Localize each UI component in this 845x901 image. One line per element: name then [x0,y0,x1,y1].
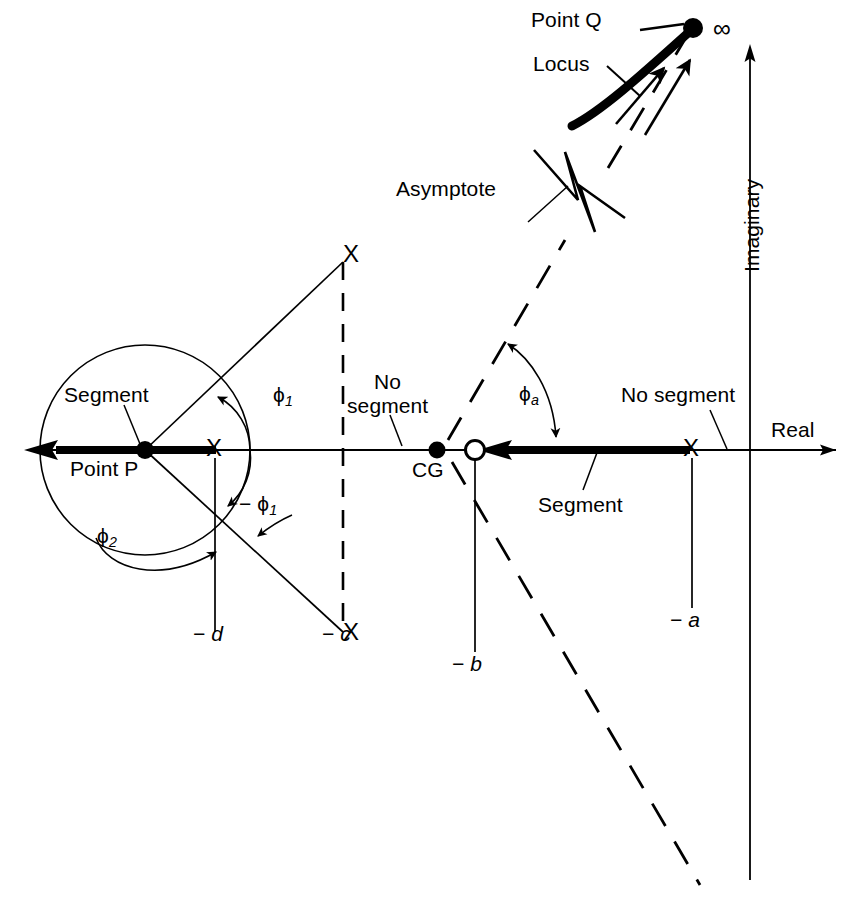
no-segment-right-label: No segment [621,383,735,407]
asymptote-line [448,34,700,885]
vector-p-to-upper-pole [145,262,343,450]
pole-marker-a: X [683,434,699,462]
axis-label-minus-b: − b [452,652,482,676]
asymptote-label: Asymptote [396,177,496,201]
locus-curve [572,33,688,126]
phi2-glyph: ϕ [97,524,109,547]
point-p-label: Point P [70,457,138,481]
neg-phi1-prefix: − [239,492,257,515]
axis-label-minus-c: − c [322,622,351,646]
phi1-upper-subscript: 1 [285,393,293,409]
no-segment-center-line1: No [374,370,401,393]
cg-dot [429,442,446,459]
phi2-label: ϕ2 [97,524,117,550]
vector-p-to-lower-pole [145,450,343,632]
leader-segment-right [583,450,598,490]
real-axis-label: Real [771,418,815,442]
neg-phi1-glyph: ϕ [257,492,269,515]
point-p-text: Point P [70,457,138,480]
pole-marker-d: X [206,434,222,462]
phi-a-glyph: ϕ [519,382,531,405]
no-segment-center-line2: segment [347,394,428,417]
zero-marker-b [466,441,485,460]
no-segment-center-label: No segment [347,370,428,417]
point-q-text: Point Q [531,8,602,31]
neg-phi1-label: − ϕ1 [239,492,277,518]
pole-marker-c-upper: X [343,240,359,268]
segment-right-label: Segment [538,493,623,517]
leader-point-q [640,24,684,30]
diagram-canvas [0,0,845,901]
phi1-arc-upper [218,397,250,450]
leader-asymptote [528,186,568,222]
imaginary-axis [745,44,756,880]
phi1-upper-glyph: ϕ [273,383,285,406]
asymptote-upper-top-half [608,34,688,168]
axis-label-minus-a: − a [670,608,700,632]
leader-no-segment-right [710,410,727,449]
infinity-symbol: ∞ [713,14,731,43]
segment-left-label: Segment [64,383,149,407]
asymptote-upper-lower-half [448,240,565,440]
imaginary-axis-label: Imaginary [740,179,764,272]
point-q-label: Point Q [531,8,602,32]
root-locus-figure: X X X X ∞ Point Q Locus Asymptote Imagin… [0,0,845,901]
cg-label: CG [412,458,444,482]
phi1-upper-label: ϕ1 [273,383,293,409]
phi2-subscript: 2 [109,534,117,550]
asymptote-lower [452,462,700,885]
real-axis-segment-right [478,440,690,460]
neg-phi1-subscript: 1 [269,502,277,518]
axis-label-minus-d: − d [193,622,223,646]
phi-a-subscript: a [531,392,539,408]
leader-no-segment-center [390,415,402,446]
locus-label: Locus [533,52,590,76]
leader-segment-left [124,405,140,444]
phi-a-label: ϕa [519,382,539,408]
